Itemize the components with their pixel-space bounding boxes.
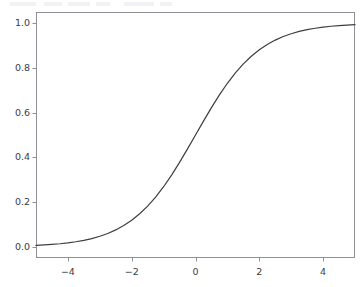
tick-marks [33,24,324,262]
sigmoid-line-chart [0,0,363,287]
x-tick-label: 2 [256,267,262,277]
x-tick-label: 0 [192,267,198,277]
y-tick-label: 0.2 [0,197,30,207]
y-tick-label: 0.0 [0,242,30,252]
y-tick-label: 0.4 [0,153,30,163]
y-tick-label: 0.6 [0,108,30,118]
x-tick-label: 4 [320,267,326,277]
matplotlib-figure: 0.00.20.40.60.81.0−4−2024 [0,0,363,287]
plot-axes: 0.00.20.40.60.81.0−4−2024 [0,0,363,287]
x-tick-label: −4 [61,267,75,277]
series-line-sigmoid [36,25,355,246]
y-tick-label: 0.8 [0,63,30,73]
x-tick-label: −2 [125,267,139,277]
y-tick-label: 1.0 [0,18,30,28]
